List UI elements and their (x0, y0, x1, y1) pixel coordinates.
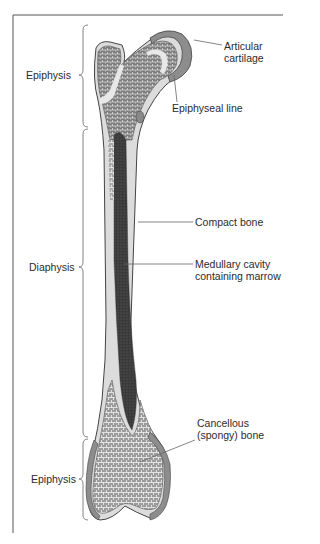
leader-articular-cartilage (194, 40, 222, 45)
label-articular-cartilage-1: Articular (224, 40, 263, 52)
epiphysis-top-bracket (79, 25, 88, 127)
diaphysis-bracket (79, 129, 88, 437)
label-compact-bone: Compact bone (195, 216, 263, 228)
label-epiphyseal-line: Epiphyseal line (172, 102, 243, 114)
label-cancellous-2: (spongy) bone (197, 429, 264, 441)
label-cancellous-1: Cancellous (197, 417, 249, 429)
label-epiphysis-top: Epiphysis (26, 69, 71, 81)
label-diaphysis: Diaphysis (29, 261, 75, 273)
label-medullary-cavity-1: Medullary cavity (195, 258, 270, 270)
label-epiphysis-bottom: Epiphysis (31, 473, 76, 485)
label-medullary-cavity-2: containing marrow (195, 270, 281, 282)
label-articular-cartilage-2: cartilage (224, 52, 264, 64)
